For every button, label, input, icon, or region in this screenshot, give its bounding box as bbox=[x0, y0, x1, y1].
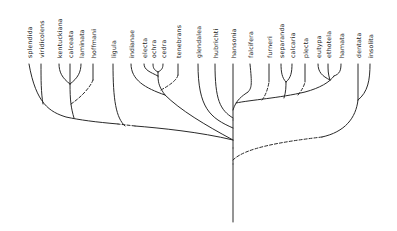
taxon-label: eutypa bbox=[315, 35, 322, 58]
taxon-label: furneri bbox=[266, 36, 273, 58]
taxon-label: glendalea bbox=[195, 26, 202, 58]
taxon-label: laminata bbox=[78, 29, 85, 58]
taxon-label: ethotela bbox=[325, 31, 332, 58]
taxon-label: calcaria bbox=[289, 32, 296, 58]
taxon-label: viridicolens bbox=[38, 20, 45, 58]
taxon-label: indianae bbox=[128, 30, 135, 58]
taxon-label: hamata bbox=[338, 33, 345, 58]
taxon-label: hubrichti bbox=[212, 29, 219, 58]
taxon-label: dentata bbox=[355, 33, 362, 59]
taxon-label: separanda bbox=[278, 23, 285, 58]
taxon-label: ligula bbox=[110, 40, 117, 58]
taxon-label: hansonia bbox=[230, 28, 237, 58]
taxon-label: plecta bbox=[302, 38, 309, 58]
taxon-label: splendida bbox=[26, 26, 33, 58]
taxon-label: electa bbox=[141, 38, 148, 58]
taxon-label: cedra bbox=[160, 40, 167, 58]
taxon-labels: splendida viridicolens kentuckiana calce… bbox=[0, 0, 397, 231]
taxon-label: calceata bbox=[67, 30, 74, 58]
taxon-label: insolita bbox=[367, 34, 374, 58]
taxon-label: ochra bbox=[150, 40, 157, 58]
taxon-label: kentuckiana bbox=[56, 18, 63, 58]
taxon-label: tenebrans bbox=[175, 25, 182, 58]
taxon-label: hoffmani bbox=[90, 29, 97, 58]
taxon-label: falcifera bbox=[247, 31, 254, 58]
